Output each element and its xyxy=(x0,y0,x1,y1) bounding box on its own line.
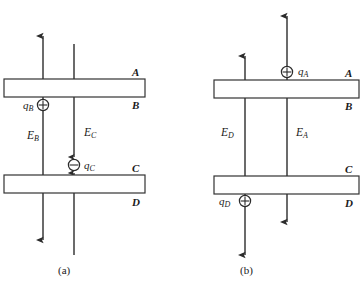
panel-a-bottom-plate xyxy=(4,175,145,193)
ED-base: E xyxy=(221,126,228,138)
panel-a-charge-qC-symbol xyxy=(68,159,79,170)
panel-a-charge-label-qC: qC xyxy=(84,160,95,173)
panel-b-charge-qD-symbol xyxy=(239,195,250,206)
panel-b-plate-label-C: C xyxy=(345,164,353,175)
panel-a-plate-label-D: D xyxy=(132,197,140,208)
EA-subscript: A xyxy=(303,131,308,140)
panel-a-top-plate xyxy=(4,79,145,97)
panel-a-plate-label-A: A xyxy=(132,67,140,78)
EC-base: E xyxy=(84,126,91,138)
panel-a-plate-label-B: B xyxy=(132,100,140,111)
panel-a-field-label-EB: EB xyxy=(27,130,39,143)
panel-b-charge-label-qA: qA xyxy=(298,66,308,79)
qA-subscript: A xyxy=(304,70,309,79)
panel-b-field-label-EA: EA xyxy=(296,127,308,140)
panel-b-field-label-ED: ED xyxy=(221,127,234,140)
EB-base: E xyxy=(27,129,34,141)
panel-b-caption: (b) xyxy=(240,265,253,276)
diagram-canvas xyxy=(0,0,364,286)
panel-b-bottom-plate xyxy=(214,176,359,194)
panel-a-plate-label-C: C xyxy=(132,163,140,174)
panel-b-plate-label-D: D xyxy=(345,198,353,209)
panel-a-field-label-EC: EC xyxy=(84,127,96,140)
EA-base: E xyxy=(296,126,303,138)
panel-b-charge-qA-symbol xyxy=(281,66,292,77)
EB-subscript: B xyxy=(34,134,39,143)
panel-a-caption: (a) xyxy=(58,265,70,276)
qC-subscript: C xyxy=(90,164,95,173)
ED-subscript: D xyxy=(228,131,234,140)
qB-subscript: B xyxy=(29,104,34,113)
qD-subscript: D xyxy=(225,200,231,209)
EC-subscript: C xyxy=(91,131,96,140)
panel-a-charge-label-qB: qB xyxy=(23,100,33,113)
figure-root: A B C D qB qC EB EC (a) A B C D qA qD ED… xyxy=(0,0,364,286)
panel-b-charge-label-qD: qD xyxy=(219,196,230,209)
panel-a-charge-qB-symbol xyxy=(37,99,48,110)
panel-b-plate-label-A: A xyxy=(345,68,353,79)
panel-b-plate-label-B: B xyxy=(345,101,353,112)
panel-b-top-plate xyxy=(214,80,359,98)
